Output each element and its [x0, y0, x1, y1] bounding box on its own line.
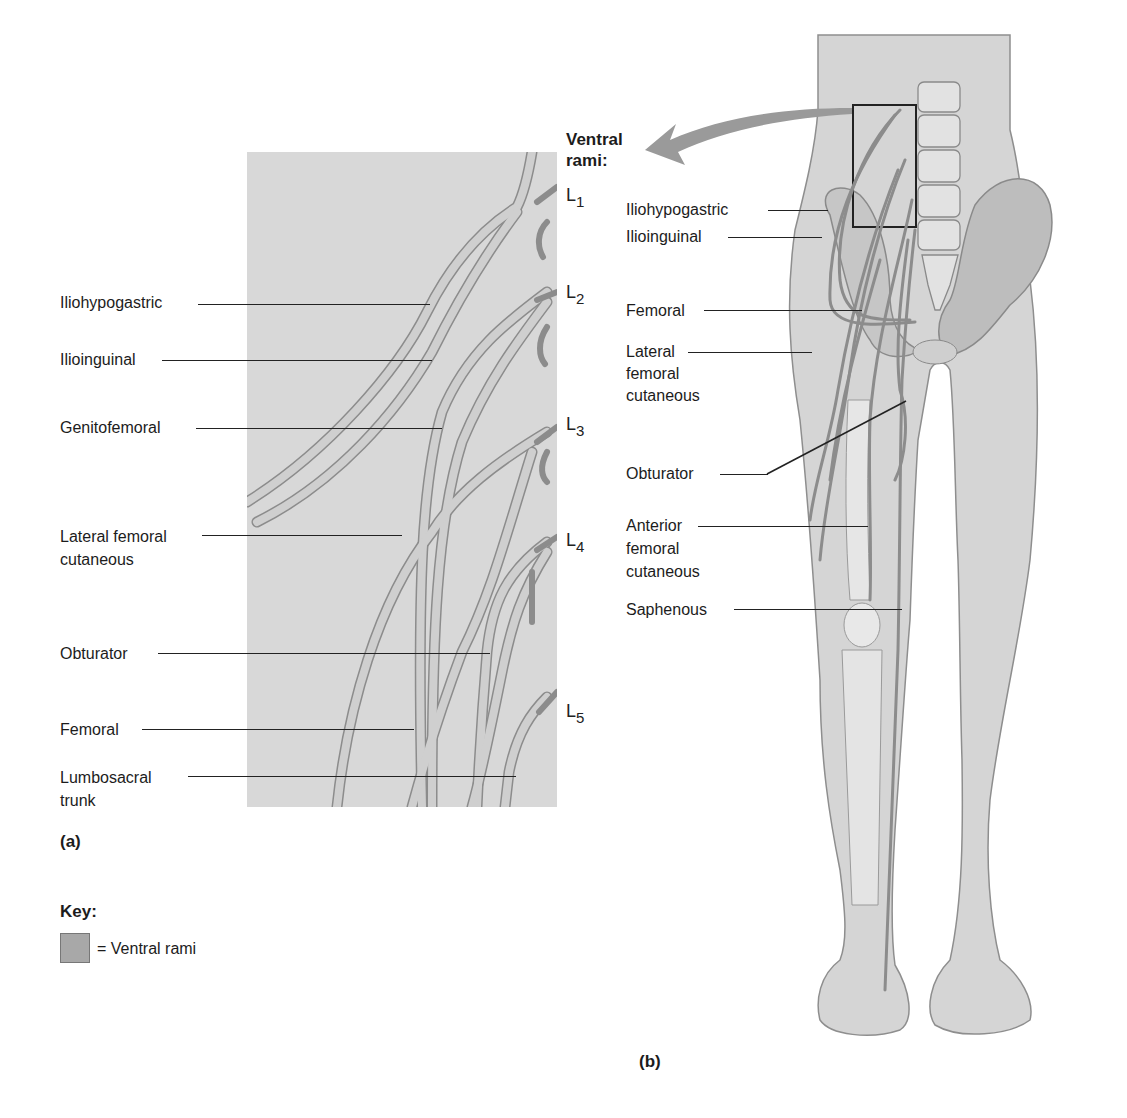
- curved-arrow-icon: [645, 108, 852, 165]
- label-b-iliohypogastric: Iliohypogastric: [626, 200, 728, 220]
- leader-line-femoral: [142, 729, 414, 730]
- label-b-anterior-femoral-cutaneous-l1: Anterior: [626, 516, 682, 536]
- leader-line-b-femoral: [704, 310, 862, 311]
- caption-a: (a): [60, 832, 81, 852]
- leader-line-b-lateral-femoral-cutaneous: [688, 352, 812, 353]
- label-b-saphenous: Saphenous: [626, 600, 707, 620]
- label-b-lateral-femoral-cutaneous-l1: Lateral: [626, 342, 675, 362]
- key-swatch-ventral-rami: [60, 933, 90, 963]
- leader-line-b-saphenous: [734, 609, 902, 610]
- leader-line-obturator: [158, 653, 490, 654]
- label-genitofemoral: Genitofemoral: [60, 418, 161, 438]
- label-b-femoral: Femoral: [626, 301, 685, 321]
- leader-line-b-ilioinguinal: [728, 237, 822, 238]
- spinal-level-l1: L1: [566, 185, 584, 210]
- leader-line-ilioinguinal: [162, 360, 432, 361]
- leader-line-iliohypogastric: [198, 304, 430, 305]
- body-outline: [790, 35, 1038, 1035]
- ventral-rami-heading-l2: rami:: [566, 151, 608, 171]
- ventral-rami-heading-l1: Ventral: [566, 130, 623, 150]
- label-b-anterior-femoral-cutaneous-l3: cutaneous: [626, 562, 700, 582]
- pelvis-right: [939, 179, 1052, 355]
- spinal-level-l2: L2: [566, 282, 584, 307]
- label-obturator: Obturator: [60, 644, 128, 664]
- key-title: Key:: [60, 902, 97, 922]
- label-b-lateral-femoral-cutaneous-l2: femoral: [626, 364, 679, 384]
- spinal-level-l5: L5: [566, 701, 584, 726]
- lumbar-spine: [918, 82, 960, 310]
- label-iliohypogastric: Iliohypogastric: [60, 293, 162, 313]
- label-femoral: Femoral: [60, 720, 119, 740]
- label-b-ilioinguinal: Ilioinguinal: [626, 227, 702, 247]
- label-lateral-femoral-cutaneous-l1: Lateral femoral: [60, 527, 167, 547]
- label-lumbosacral-trunk-l2: trunk: [60, 791, 96, 811]
- key-label-ventral-rami: = Ventral rami: [97, 939, 196, 959]
- label-b-obturator: Obturator: [626, 464, 694, 484]
- leader-line-lateral-femoral-cutaneous: [202, 535, 402, 536]
- detail-region-box: [853, 105, 916, 227]
- label-b-lateral-femoral-cutaneous-l3: cutaneous: [626, 386, 700, 406]
- panel-a-plexus-detail: [247, 152, 557, 807]
- label-ilioinguinal: Ilioinguinal: [60, 350, 136, 370]
- label-lateral-femoral-cutaneous-l2: cutaneous: [60, 550, 134, 570]
- pelvis-left: [825, 188, 920, 357]
- leader-line-genitofemoral: [196, 428, 442, 429]
- leader-line-b-iliohypogastric: [768, 210, 828, 211]
- label-b-anterior-femoral-cutaneous-l2: femoral: [626, 539, 679, 559]
- leader-line-b-obturator: [720, 474, 768, 475]
- leader-line-b-anterior-femoral-cutaneous: [698, 526, 868, 527]
- caption-b: (b): [639, 1052, 661, 1072]
- label-lumbosacral-trunk-l1: Lumbosacral: [60, 768, 152, 788]
- spinal-level-l3: L3: [566, 414, 584, 439]
- leader-line-lumbosacral-trunk: [188, 776, 516, 777]
- spinal-level-l4: L4: [566, 530, 584, 555]
- lumbar-plexus-illustration: [247, 152, 557, 807]
